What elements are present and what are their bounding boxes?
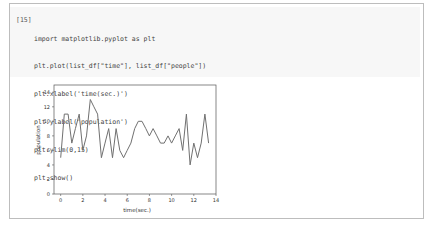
x-tick-label: 4 — [103, 197, 106, 203]
data-line-people — [61, 100, 209, 165]
y-tick-label: 2 — [47, 176, 50, 182]
y-tick-label: 8 — [47, 133, 50, 139]
chart-axes: 0246810121402468101214 — [44, 85, 220, 203]
line-chart: 0246810121402468101214 time(sec.) popula… — [0, 0, 428, 229]
y-tick-label: 10 — [44, 118, 50, 124]
x-tick-label: 2 — [81, 197, 84, 203]
x-tick-label: 12 — [191, 197, 197, 203]
y-axis-label: population — [35, 125, 42, 155]
x-tick-label: 14 — [213, 197, 219, 203]
x-axis-label: time(sec.) — [123, 207, 151, 213]
x-tick-label: 10 — [168, 197, 174, 203]
x-tick-label: 0 — [59, 197, 62, 203]
x-tick-label: 8 — [148, 197, 151, 203]
y-tick-label: 14 — [44, 89, 50, 95]
x-tick-label: 6 — [126, 197, 129, 203]
plot-area-border — [54, 85, 216, 194]
y-tick-label: 6 — [47, 147, 50, 153]
y-tick-label: 4 — [47, 162, 50, 168]
y-tick-label: 0 — [47, 191, 50, 197]
y-tick-label: 12 — [44, 104, 50, 110]
